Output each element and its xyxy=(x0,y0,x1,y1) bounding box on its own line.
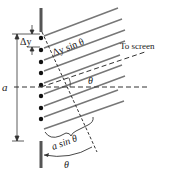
label-a: a xyxy=(2,81,8,93)
single-slit-diagram: Δy Δy sin θ To screen θ a a sin θ θ xyxy=(0,0,175,176)
source-dots xyxy=(39,36,43,121)
to-screen-line xyxy=(41,52,145,87)
label-theta-bottom: θ xyxy=(64,159,69,170)
theta-center-arc xyxy=(69,78,70,87)
rays xyxy=(44,8,125,129)
arc-arrowhead xyxy=(44,153,49,157)
label-a-sin: a sin θ xyxy=(50,132,79,151)
label-delta-y: Δy xyxy=(20,36,31,47)
theta-bottom-arc xyxy=(44,147,92,156)
label-to-screen: To screen xyxy=(120,41,155,51)
label-theta-center: θ xyxy=(88,75,93,86)
